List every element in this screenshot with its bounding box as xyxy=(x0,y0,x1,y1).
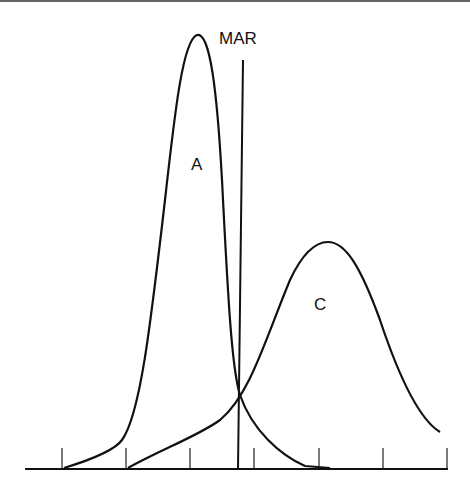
curve-a xyxy=(64,35,330,468)
curve-c-label: C xyxy=(314,295,326,315)
curve-c xyxy=(128,242,440,468)
mar-label: MAR xyxy=(219,29,257,49)
x-axis-ticks xyxy=(62,448,447,469)
mar-line xyxy=(238,60,243,469)
curve-a-label: A xyxy=(191,155,202,175)
distribution-chart xyxy=(0,0,470,492)
